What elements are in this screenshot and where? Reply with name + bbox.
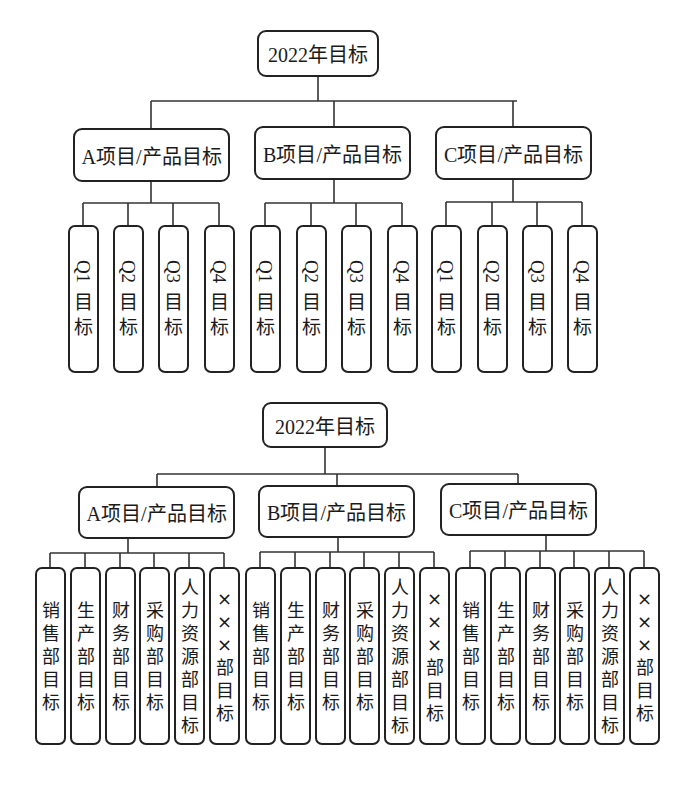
d1-quarter-box: Q4目标: [567, 225, 598, 373]
d1-quarter-box: Q3目标: [158, 225, 189, 373]
quarter-suffix-char: 目: [347, 290, 366, 315]
quarter-suffix-char: 目: [256, 290, 275, 315]
quarter-label: Q2目标: [299, 259, 324, 340]
department-char: 部: [532, 645, 550, 668]
quarter-code: Q4: [570, 259, 595, 284]
department-label: 财务部目标: [322, 599, 340, 714]
department-char: ×: [217, 610, 232, 633]
department-char: 标: [566, 691, 584, 714]
department-char: 源: [391, 645, 409, 668]
d2-dept-box: 人力资源部目标: [174, 567, 205, 745]
d1-project-box-b-label: B项目/产品目标: [263, 139, 402, 168]
department-char: 标: [181, 714, 199, 737]
d2-project-box-a: A项目/产品目标: [78, 486, 235, 539]
department-label: ×××部目标: [216, 587, 234, 725]
d1-quarter-box: Q4目标: [387, 225, 418, 373]
d2-dept-box: 采购部目标: [349, 567, 380, 745]
department-char: 部: [252, 645, 270, 668]
quarter-suffix-char: 目: [528, 290, 547, 315]
d2-dept-box: 人力资源部目标: [594, 567, 625, 745]
department-char: 目: [252, 668, 270, 691]
department-char: 标: [252, 691, 270, 714]
d2-dept-box: 生产部目标: [70, 567, 101, 745]
department-char: 售: [252, 622, 270, 645]
department-char: 部: [287, 645, 305, 668]
department-char: 标: [322, 691, 340, 714]
department-char: 财: [532, 599, 550, 622]
department-char: 部: [181, 668, 199, 691]
department-char: 目: [287, 668, 305, 691]
department-char: 部: [42, 645, 60, 668]
quarter-label: Q4目标: [570, 259, 595, 340]
quarter-code: Q3: [161, 259, 186, 284]
d1-quarter-box: Q1目标: [68, 225, 99, 373]
d1-root-box: 2022年目标: [257, 30, 379, 77]
department-char: 目: [77, 668, 95, 691]
department-char: ×: [427, 610, 442, 633]
department-char: 销: [462, 599, 480, 622]
d1-project-box-c-label: C项目/产品目标: [444, 139, 583, 168]
department-char: 标: [42, 691, 60, 714]
department-char: 销: [252, 599, 270, 622]
department-char: 目: [636, 679, 654, 702]
department-char: 标: [532, 691, 550, 714]
department-char: 标: [287, 691, 305, 714]
department-char: ×: [217, 587, 232, 610]
department-char: 产: [497, 622, 515, 645]
quarter-suffix-char: 目: [74, 290, 93, 315]
department-char: 目: [42, 668, 60, 691]
department-char: 资: [181, 622, 199, 645]
department-char: 生: [287, 599, 305, 622]
department-char: 产: [287, 622, 305, 645]
d1-quarter-box: Q1目标: [431, 225, 462, 373]
quarter-code: Q1: [253, 259, 278, 284]
department-label: 销售部目标: [252, 599, 270, 714]
department-char: 财: [112, 599, 130, 622]
d2-dept-box: 财务部目标: [105, 567, 136, 745]
d2-root-box-label: 2022年目标: [275, 411, 375, 440]
department-char: 部: [146, 645, 164, 668]
department-char: 部: [497, 645, 515, 668]
department-label: 人力资源部目标: [601, 576, 619, 737]
quarter-suffix-char: 目: [119, 290, 138, 315]
department-char: 售: [42, 622, 60, 645]
department-label: 生产部目标: [497, 599, 515, 714]
department-char: 资: [391, 622, 409, 645]
department-char: 目: [112, 668, 130, 691]
department-char: 标: [216, 702, 234, 725]
department-label: 财务部目标: [532, 599, 550, 714]
department-char: 标: [497, 691, 515, 714]
department-char: 力: [181, 599, 199, 622]
quarter-suffix-char: 标: [256, 315, 275, 340]
quarter-label: Q1目标: [434, 259, 459, 340]
department-char: 人: [181, 576, 199, 599]
quarter-suffix-char: 标: [528, 315, 547, 340]
department-char: 部: [636, 656, 654, 679]
department-char: 源: [181, 645, 199, 668]
department-char: 财: [322, 599, 340, 622]
department-label: 财务部目标: [112, 599, 130, 714]
department-char: 部: [322, 645, 340, 668]
department-char: 目: [497, 668, 515, 691]
department-char: ×: [637, 587, 652, 610]
department-char: 目: [532, 668, 550, 691]
department-char: 部: [601, 668, 619, 691]
department-char: 目: [322, 668, 340, 691]
d2-project-box-c-label: C项目/产品目标: [449, 495, 588, 524]
department-label: 生产部目标: [77, 599, 95, 714]
quarter-suffix-char: 目: [393, 290, 412, 315]
quarter-suffix-char: 标: [573, 315, 592, 340]
department-char: 部: [426, 656, 444, 679]
department-char: 目: [391, 691, 409, 714]
d1-quarter-box: Q1目标: [250, 225, 281, 373]
department-char: 生: [497, 599, 515, 622]
quarter-label: Q2目标: [480, 259, 505, 340]
d1-quarter-box: Q2目标: [477, 225, 508, 373]
department-label: 人力资源部目标: [181, 576, 199, 737]
d2-dept-box: 生产部目标: [490, 567, 521, 745]
department-char: 标: [462, 691, 480, 714]
quarter-code: Q2: [480, 259, 505, 284]
quarter-suffix-char: 标: [393, 315, 412, 340]
department-char: 力: [391, 599, 409, 622]
d1-project-box-c: C项目/产品目标: [435, 126, 592, 180]
